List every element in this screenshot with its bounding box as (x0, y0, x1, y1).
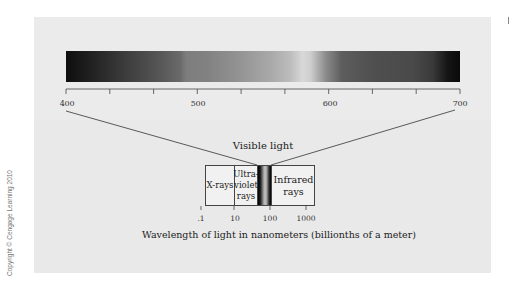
log-label-0.1: .1 (197, 214, 204, 223)
region-ultraviolet-label: Ultra- violet rays (233, 169, 258, 202)
axis-label-400: 400 (60, 99, 75, 108)
figure-caption: Wavelength of light in nanometers (billi… (142, 229, 416, 240)
log-label-100: 100 (263, 214, 277, 223)
connector-line-400 (66, 111, 257, 165)
connector-line-700 (271, 110, 455, 165)
copyright-notice: Copyright © Cengage Learning 2010 (6, 170, 13, 276)
log-axis-ticks (201, 206, 306, 210)
region-ultraviolet: Ultra- violet rays (235, 166, 258, 205)
em-spectrum-box: X-rays Ultra- violet rays Infrared rays (205, 165, 315, 206)
region-infrared-label: Infrared rays (274, 174, 314, 198)
axis-label-500: 500 (191, 99, 206, 108)
region-visible-strip (258, 166, 272, 205)
axis-label-700: 700 (453, 99, 468, 108)
region-xrays: X-rays (206, 166, 235, 205)
region-xrays-label: X-rays (207, 180, 234, 191)
wavelength-axis-ticks (66, 89, 460, 94)
region-infrared: Infrared rays (272, 166, 315, 205)
log-label-1000: 1000 (296, 214, 315, 223)
log-label-10: 10 (230, 214, 240, 223)
visible-light-label: Visible light (233, 140, 294, 151)
axis-label-600: 600 (323, 99, 338, 108)
